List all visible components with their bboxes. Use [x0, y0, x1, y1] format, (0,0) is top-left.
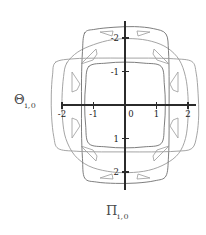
y-tick-label--1: -1 [111, 67, 119, 77]
y-tick-label--2: -2 [111, 33, 119, 43]
y-axis-subscript: i,0 [25, 101, 37, 110]
cusp-right-lower [170, 118, 178, 138]
cusp-bottom-center-right [137, 174, 150, 179]
cusp-bottom-center-left [100, 174, 113, 179]
y-tick-label-2: 2 [114, 167, 119, 177]
cusp-top-right [153, 49, 169, 64]
phase-portrait-figure: -2-101221-1-2 Θi,0 Πi,0 [0, 0, 206, 235]
cusp-bottom-right [153, 146, 169, 161]
cusp-top-left [81, 49, 97, 64]
x-axis-subscript: i,0 [117, 212, 129, 221]
axes-group [62, 21, 196, 190]
cusp-left-upper [72, 72, 80, 92]
cusp-top-center-right [137, 31, 150, 36]
y-axis-symbol: Θ [14, 92, 25, 107]
x-tick-label--2: -2 [58, 109, 66, 119]
x-axis-symbol: Π [106, 203, 117, 218]
x-axis-label: Πi,0 [106, 203, 129, 221]
y-tick-label-1: 1 [114, 134, 119, 144]
plot-canvas: -2-101221-1-2 [0, 0, 206, 235]
cusp-left-lower [72, 118, 80, 138]
x-tick-label-1: 1 [154, 109, 159, 119]
x-tick-label--1: -1 [89, 109, 97, 119]
cusp-right-upper [170, 72, 178, 92]
cusp-bottom-left [81, 146, 97, 161]
x-tick-label-2: 2 [185, 109, 190, 119]
y-axis-label: Θi,0 [14, 92, 36, 110]
x-tick-label-0: 0 [128, 109, 133, 119]
